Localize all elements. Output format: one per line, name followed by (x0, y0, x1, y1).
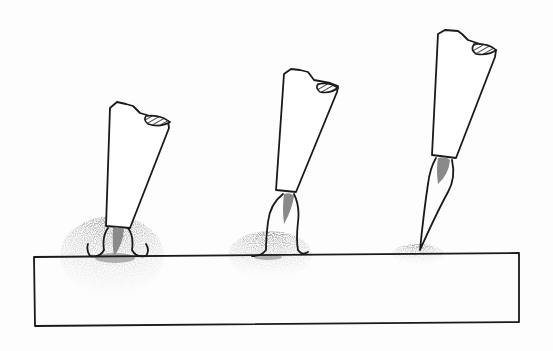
torch-3-cut-section (472, 44, 496, 55)
torch-2-flame-core (283, 193, 294, 224)
torch-1-cut-section (145, 116, 170, 126)
torch-2 (252, 69, 338, 256)
torch-3-flame-core (437, 157, 450, 184)
diagram-canvas (0, 0, 553, 351)
torch-flame-diagram (0, 0, 553, 351)
torch-3 (420, 30, 496, 250)
torch-3-flame-envelope (420, 158, 453, 250)
